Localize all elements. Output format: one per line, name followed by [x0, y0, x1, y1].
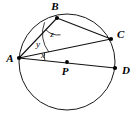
- point-dot-c: [109, 37, 113, 41]
- point-label-c: C: [117, 28, 125, 40]
- point-label-d: D: [121, 64, 130, 76]
- point-dot-d: [113, 66, 117, 70]
- point-dot-b: [55, 16, 59, 20]
- point-dot-p: [65, 60, 69, 64]
- angle-arc-y: [42, 22, 48, 52]
- chord-BC: [57, 18, 111, 39]
- angle-label-y: y: [35, 39, 40, 49]
- point-label-a: A: [5, 52, 13, 64]
- angle-label-z: z: [49, 29, 54, 39]
- angle-label-x: x: [40, 50, 45, 60]
- chord-AC: [19, 39, 111, 58]
- point-label-p: P: [62, 65, 69, 77]
- geometry-canvas: A B C D P y x z: [0, 0, 136, 122]
- point-dot-a: [17, 56, 21, 60]
- circle-geometry-diagram: A B C D P y x z: [0, 0, 136, 122]
- point-label-b: B: [50, 0, 58, 12]
